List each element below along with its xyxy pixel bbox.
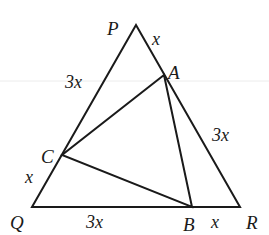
segment-label-br: x <box>210 212 219 232</box>
vertex-label-r: R <box>245 212 258 233</box>
vertex-label-p: P <box>106 18 119 39</box>
diagram-canvas: P A C Q B R x 3x 3x x 3x x <box>0 0 269 235</box>
geometry-figure: P A C Q B R x 3x 3x x 3x x <box>0 0 269 235</box>
segment-label-pa: x <box>151 29 160 49</box>
vertex-label-b: B <box>183 214 195 235</box>
segment-label-qb: 3x <box>85 212 103 232</box>
triangle-pqr <box>32 25 240 207</box>
segment-label-cq: x <box>24 167 33 187</box>
segment-label-pc: 3x <box>64 72 82 92</box>
triangle-abc <box>62 75 192 207</box>
vertex-label-a: A <box>166 62 180 83</box>
segment-label-ar: 3x <box>211 125 229 145</box>
vertex-label-c: C <box>41 146 54 167</box>
vertex-label-q: Q <box>10 212 24 233</box>
